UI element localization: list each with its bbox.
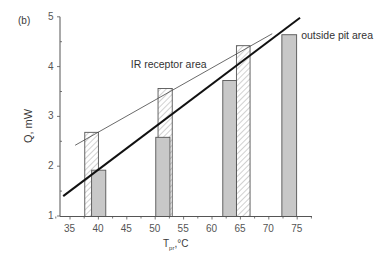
y-axis-label: Q, mW xyxy=(22,106,34,146)
x-tick-label: 60 xyxy=(206,223,217,234)
trend-line-outside-pit xyxy=(63,18,300,196)
x-axis-label-unit: ,°C xyxy=(174,238,188,249)
panel-label: (b) xyxy=(18,15,30,26)
x-tick-label: 35 xyxy=(64,223,75,234)
bar-outside-pit xyxy=(223,81,237,217)
y-tick-label: 1 xyxy=(48,210,54,221)
x-axis-label: Tpr,°C xyxy=(163,238,188,251)
x-tick-label: 50 xyxy=(149,223,160,234)
y-tick-label: 4 xyxy=(48,61,54,72)
bar-outside-pit xyxy=(156,137,170,216)
annotation-outside-pit-area: outside pit area xyxy=(301,29,373,41)
x-tick-label: 55 xyxy=(178,223,189,234)
y-tick-label: 3 xyxy=(48,110,54,121)
bar-ir-receptor xyxy=(236,46,250,217)
x-tick-label: 40 xyxy=(92,223,103,234)
x-tick-label: 75 xyxy=(291,223,302,234)
bar-outside-pit xyxy=(92,170,106,216)
x-tick-label: 70 xyxy=(263,223,274,234)
x-tick-label: 65 xyxy=(234,223,245,234)
x-tick-label: 45 xyxy=(121,223,132,234)
bar-outside-pit xyxy=(282,35,297,217)
trend-lines-layer xyxy=(63,18,300,196)
y-tick-label: 5 xyxy=(48,11,54,22)
annotation-ir-receptor-area: IR receptor area xyxy=(131,58,207,70)
y-tick-label: 2 xyxy=(48,160,54,171)
